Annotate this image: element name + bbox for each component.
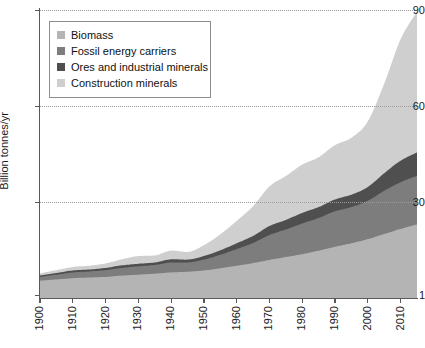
x-tick-label-1940: 1940 [165, 306, 176, 330]
legend-label-biomass: Biomass [71, 30, 113, 41]
x-tick-mark-2010 [400, 298, 401, 303]
x-tick-mark-1900 [39, 298, 40, 303]
legend-label-construction-minerals: Construction minerals [71, 78, 177, 89]
stacked-area-chart: 90 60 30 1 Billion tonnes/yr 19001910192… [0, 0, 425, 348]
x-tick-mark-1990 [334, 298, 335, 303]
x-tick-mark-1980 [302, 298, 303, 303]
x-tick-mark-1930 [138, 298, 139, 303]
y-tick-label-90: 90 [395, 5, 425, 16]
x-tick-mark-1960 [236, 298, 237, 303]
legend-item-ores-and-industrial-minerals: Ores and industrial minerals [57, 59, 203, 75]
legend-label-ores-and-industrial-minerals: Ores and industrial minerals [71, 62, 208, 73]
x-tick-mark-1950 [203, 298, 204, 303]
legend-label-fossil-energy-carriers: Fossil energy carriers [71, 46, 176, 57]
x-tick-mark-1910 [72, 298, 73, 303]
legend-item-biomass: Biomass [57, 27, 203, 43]
y-tick-mark-0 [35, 295, 39, 296]
x-tick-mark-1920 [105, 298, 106, 303]
legend-item-construction-minerals: Construction minerals [57, 75, 203, 91]
x-tick-label-1960: 1960 [231, 306, 242, 330]
x-tick-label-1920: 1920 [100, 306, 111, 330]
y-axis-line [39, 8, 40, 299]
gridline-30 [40, 202, 417, 203]
x-tick-mark-1940 [171, 298, 172, 303]
legend-swatch-biomass [57, 31, 65, 39]
x-tick-label-1950: 1950 [198, 306, 209, 330]
y-tick-label-30: 30 [395, 197, 425, 208]
x-tick-mark-2000 [367, 298, 368, 303]
x-tick-label-1900: 1900 [34, 306, 45, 330]
legend-swatch-fossil-energy-carriers [57, 47, 65, 55]
x-tick-label-2010: 2010 [395, 306, 406, 330]
x-tick-label-1980: 1980 [296, 306, 307, 330]
x-tick-label-1990: 1990 [329, 306, 340, 330]
x-tick-label-1970: 1970 [263, 306, 274, 330]
legend-swatch-ores-and-industrial-minerals [57, 63, 65, 71]
x-tick-label-2000: 2000 [362, 306, 373, 330]
x-axis-line [39, 298, 418, 299]
gridline-60 [40, 106, 417, 107]
y-tick-mark-90 [35, 10, 39, 11]
legend-swatch-construction-minerals [57, 79, 65, 87]
chart-legend: Biomass Fossil energy carriers Ores and … [49, 21, 211, 98]
y-axis-title: Billion tonnes/yr [0, 112, 10, 190]
y-tick-mark-60 [35, 106, 39, 107]
x-tick-label-1910: 1910 [67, 306, 78, 330]
gridline-90 [40, 10, 417, 11]
x-tick-label-1930: 1930 [132, 306, 143, 330]
y-tick-mark-30 [35, 202, 39, 203]
y-tick-label-60: 60 [395, 101, 425, 112]
legend-item-fossil-energy-carriers: Fossil energy carriers [57, 43, 203, 59]
x-tick-mark-1970 [269, 298, 270, 303]
